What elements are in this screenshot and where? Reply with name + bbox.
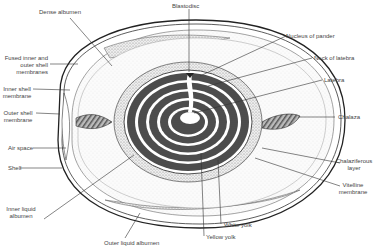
label-shell: Shell [8,165,21,172]
label-vitelline-membrane: Vitelline membrane [336,182,370,196]
latebra [180,112,200,124]
label-outer-liquid-albumen: Outer liquid albumen [104,240,159,247]
label-inner-shell-membrane: Inner shell membrane [2,86,32,100]
yolk-layers [127,73,249,171]
label-neck-of-latebra: Neck of latebra [314,55,354,62]
label-blastodisc: Blastodisc [172,3,199,10]
label-air-space: Air space [8,145,33,152]
label-dense-albumen: Dense albumen [39,9,81,16]
label-yellow-yolk: Yellow yolk [206,234,235,241]
label-white-yolk: White yolk [224,222,252,229]
label-inner-liquid-albumen: Inner liquid albumen [2,206,40,220]
label-latebra: Latebra [324,77,344,84]
label-nucleus-of-pander: Nucleus of pander [286,33,335,40]
egg-structure-diagram: Dense albumen Blastodisc Nucleus of pand… [0,0,376,249]
label-outer-shell-membrane: Outer shell membrane [2,110,34,124]
label-chalaziferous-layer: Chalaziferous layer [334,158,374,172]
label-chalaza: Chalaza [338,114,360,121]
label-fused-membranes: Fused inner and outer shell membranes [0,55,48,76]
